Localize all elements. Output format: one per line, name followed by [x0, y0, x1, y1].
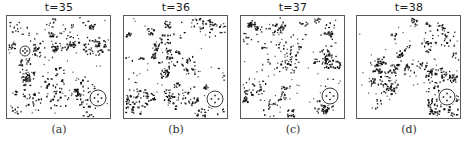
lattice-canvas	[241, 16, 344, 118]
circled-marker-icon	[89, 89, 108, 108]
panel-d: t=38 (d)	[356, 0, 462, 142]
circled-marker-icon	[19, 45, 32, 58]
lattice-canvas	[124, 16, 227, 118]
panel-title: t=36	[123, 1, 229, 14]
panel-title: t=35	[6, 1, 112, 14]
circled-marker-icon	[438, 88, 457, 107]
panel-title: t=37	[240, 1, 346, 14]
figure: t=35 (a) t=36 (b) t=37 (c) t=38 (d)	[0, 0, 468, 142]
lattice-canvas	[357, 16, 460, 118]
panel-title: t=38	[356, 1, 462, 14]
panel-caption: (d)	[356, 123, 462, 137]
panel-caption: (c)	[240, 123, 346, 137]
panel-caption: (a)	[6, 123, 112, 137]
panel-b: t=36 (b)	[123, 0, 229, 142]
lattice-canvas	[7, 16, 110, 118]
panel-caption: (b)	[123, 123, 229, 137]
lattice-snapshot	[356, 15, 461, 119]
lattice-snapshot	[6, 15, 111, 119]
circled-marker-icon	[321, 87, 340, 106]
lattice-snapshot	[240, 15, 345, 119]
panel-a: t=35 (a)	[6, 0, 112, 142]
lattice-snapshot	[123, 15, 228, 119]
panel-c: t=37 (c)	[240, 0, 346, 142]
circled-marker-icon	[206, 90, 225, 109]
